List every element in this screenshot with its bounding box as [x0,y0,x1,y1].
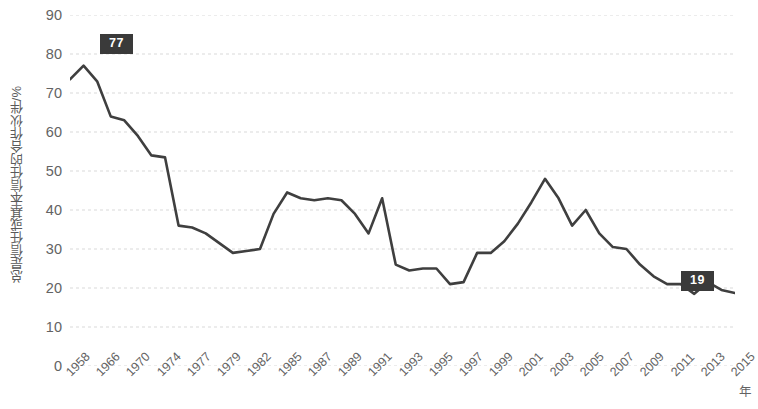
y-tick-10: 10 [28,320,62,335]
data-label-peak: 77 [100,34,133,54]
y-tick-20: 20 [28,281,62,296]
y-tick-50: 50 [28,164,62,179]
y-tick-30: 30 [28,242,62,257]
y-tick-80: 80 [28,47,62,62]
gridlines [70,15,735,366]
series-line [70,66,735,294]
y-tick-40: 40 [28,203,62,218]
y-tick-90: 90 [28,8,62,23]
y-tick-60: 60 [28,125,62,140]
y-axis-title-text: 总是信任或基本信任的合作伙伴/% [10,86,23,283]
x-axis-unit-label: 年 [739,386,752,399]
plot-area [70,15,735,366]
data-label-end: 19 [681,271,714,291]
y-axis-title: 总是信任或基本信任的合作伙伴/% [2,0,30,370]
y-tick-0: 0 [28,359,62,374]
y-tick-70: 70 [28,86,62,101]
